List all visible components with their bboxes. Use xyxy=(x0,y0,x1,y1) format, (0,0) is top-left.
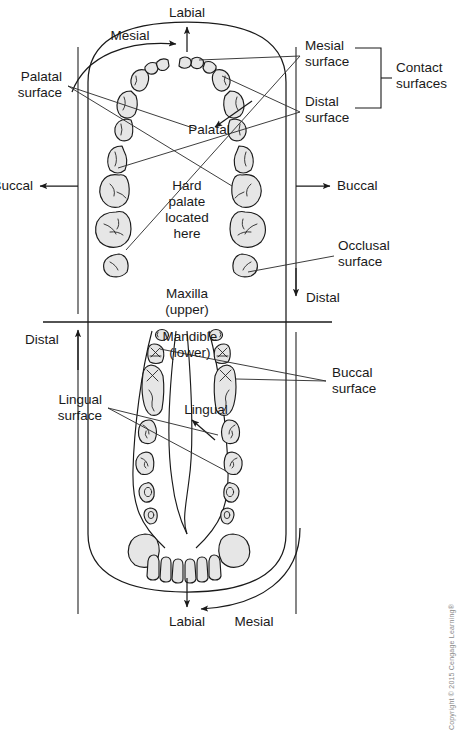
arrow-lingual xyxy=(192,420,215,440)
leader-mesial-b xyxy=(126,56,300,250)
label-mandible-line2: (lower) xyxy=(169,345,210,360)
mandibular-arch xyxy=(128,330,250,584)
copyright-notice: Copyright © 2015 Cengage Learning® xyxy=(448,604,455,730)
label-distal-upper: Distal xyxy=(306,290,340,305)
label-palatal-surface-line1: Palatal xyxy=(21,69,62,84)
label-lingual-surface-line1: Lingual xyxy=(58,392,102,407)
leader-buccal-lower-b xyxy=(236,379,326,381)
label-palatal: Palatal xyxy=(188,122,229,137)
label-mandible-line1: Mandible xyxy=(163,329,218,344)
label-occlusal-surface-line1: Occlusal xyxy=(338,238,390,253)
leader-occlusal xyxy=(248,256,334,272)
label-occlusal-surface-line2: surface xyxy=(338,254,382,269)
label-hard-palate-line2: palate xyxy=(169,194,206,209)
label-distal-lower: Distal xyxy=(25,332,59,347)
label-buccal-surface-line2: surface xyxy=(332,381,376,396)
label-buccal-right: Buccal xyxy=(337,178,378,193)
label-maxilla-line2: (upper) xyxy=(165,302,209,317)
label-labial-upper: Labial xyxy=(169,5,205,20)
label-labial-lower: Labial xyxy=(169,614,205,629)
label-contact-surfaces-line1: Contact xyxy=(396,60,443,75)
contact-surfaces-bracket xyxy=(355,48,392,108)
label-hard-palate-line1: Hard xyxy=(172,178,201,193)
label-buccal-left: Buccal xyxy=(0,178,33,193)
leader-mesial-a xyxy=(199,56,300,60)
label-distal-surface-line1: Distal xyxy=(305,94,339,109)
label-lingual: Lingual xyxy=(184,402,228,417)
label-mesial-surface-line2: surface xyxy=(305,54,349,69)
label-mesial-lower: Mesial xyxy=(234,614,273,629)
leader-lingual-lower-b xyxy=(108,408,226,471)
label-hard-palate-line4: here xyxy=(173,226,200,241)
label-maxilla-line1: Maxilla xyxy=(166,286,209,301)
leader-distal-b xyxy=(118,112,300,168)
label-distal-surface-line2: surface xyxy=(305,110,349,125)
label-contact-surfaces-line2: surfaces xyxy=(396,76,447,91)
label-lingual-surface-line2: surface xyxy=(58,408,102,423)
label-hard-palate-line3: located xyxy=(165,210,209,225)
label-buccal-surface-line1: Buccal xyxy=(332,365,373,380)
label-palatal-surface-line2: surface xyxy=(18,85,62,100)
label-mesial-surface-line1: Mesial xyxy=(305,38,344,53)
mandibular-teeth xyxy=(128,330,250,584)
label-mesial-upper: Mesial xyxy=(110,28,149,43)
